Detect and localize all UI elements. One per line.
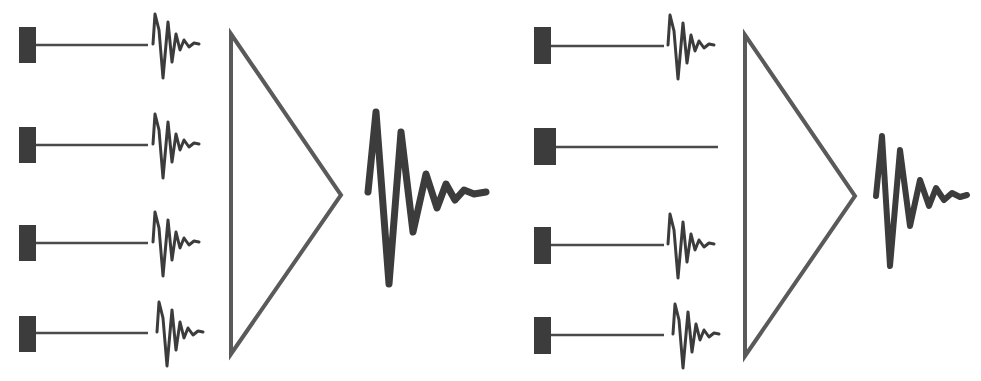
channel-row <box>19 212 199 276</box>
channel-row <box>534 214 714 278</box>
wavelet-icon <box>153 212 199 276</box>
sensor-icon <box>534 27 551 64</box>
wavelet-icon <box>157 302 203 366</box>
wavelet-icon <box>673 304 719 368</box>
sensor-icon <box>19 27 36 63</box>
channel-row <box>534 304 719 368</box>
wavelet-icon <box>668 15 714 79</box>
left-panel <box>19 14 486 366</box>
sensor-icon <box>19 316 36 352</box>
channel-row-dead <box>534 128 718 165</box>
triangle-icon <box>745 35 855 356</box>
channel-row <box>19 302 203 366</box>
output-wavelet-icon <box>876 136 967 266</box>
wavelet-icon <box>153 14 199 78</box>
channel-row <box>534 15 714 79</box>
sensor-icon <box>19 225 36 261</box>
wavelet-icon <box>153 114 199 178</box>
wavelet-icon <box>668 214 714 278</box>
output-wavelet-icon <box>368 112 486 284</box>
sensor-icon <box>534 317 551 354</box>
triangle-icon <box>231 34 341 354</box>
sensor-icon <box>534 227 551 264</box>
stacking-diagram <box>0 0 981 381</box>
channel-row <box>19 14 199 78</box>
sensor-icon <box>534 128 556 165</box>
sensor-icon <box>19 127 36 163</box>
channel-row <box>19 114 199 178</box>
right-panel <box>534 15 967 368</box>
